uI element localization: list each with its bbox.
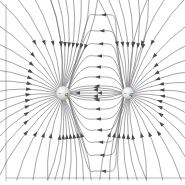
arrow-head-icon xyxy=(84,44,88,50)
arrow-head-icon xyxy=(142,44,146,50)
arrow-head-icon xyxy=(96,65,101,69)
field-line-spoke xyxy=(33,0,61,87)
arrow-head-icon xyxy=(25,93,30,97)
arrow-head-icon xyxy=(75,91,80,95)
arrow-head-icon xyxy=(121,42,125,47)
field-line-spoke xyxy=(65,100,91,181)
arrow-head-icon xyxy=(107,132,110,138)
field-line-spoke xyxy=(62,100,67,180)
arrow-head-icon xyxy=(93,86,98,89)
arrow-head-icon xyxy=(42,40,46,46)
arrow-head-icon xyxy=(158,113,163,118)
arrow-head-icon xyxy=(33,131,37,136)
arrow-head-icon xyxy=(23,130,28,135)
arrow-head-icon xyxy=(26,81,32,85)
arrow-head-icon xyxy=(122,133,126,138)
field-line-spoke xyxy=(33,100,61,181)
arrow-head-icon xyxy=(51,41,55,47)
arrow-head-icon xyxy=(95,75,100,79)
arrow-head-icon xyxy=(98,140,103,144)
arrow-head-icon xyxy=(25,99,31,103)
arrow-head-icon xyxy=(76,43,80,49)
arrow-head-icon xyxy=(26,87,31,91)
field-line-spoke xyxy=(134,72,185,91)
page-frame xyxy=(6,4,185,181)
charge-quantity-label: q xyxy=(65,90,69,98)
arrow-head-icon xyxy=(101,170,106,174)
arrow-head-icon xyxy=(112,132,116,138)
arrow-head-icon xyxy=(95,107,100,111)
arrow-head-icon xyxy=(160,94,165,98)
charge-right: −q xyxy=(122,87,134,99)
field-line-spoke xyxy=(47,100,61,180)
arrow-head-icon xyxy=(49,133,53,139)
field-line-spoke xyxy=(134,90,185,93)
arrow-head-icon xyxy=(65,134,69,139)
arrow-head-icon xyxy=(41,132,45,138)
arrow-head-icon xyxy=(27,75,33,79)
arrow-head-icon xyxy=(28,69,33,73)
arrow-head-icon xyxy=(69,134,73,139)
arrow-head-icon xyxy=(159,88,164,92)
arrow-head-icon xyxy=(157,100,163,104)
arrow-head-icon xyxy=(148,132,152,138)
arrow-head-icon xyxy=(67,42,71,47)
arrow-head-icon xyxy=(24,105,30,109)
electric-field-diagram: −q−q xyxy=(0,0,185,185)
arrow-head-icon xyxy=(71,43,75,48)
arrow-head-icon xyxy=(131,134,135,139)
arrow-head-icon xyxy=(59,41,63,46)
arrow-head-icon xyxy=(131,43,135,48)
arrow-head-icon xyxy=(73,133,77,138)
arrow-head-icon xyxy=(158,106,164,110)
arrow-head-icon xyxy=(126,42,130,47)
arrow-head-icon xyxy=(99,153,104,157)
figure-container: −q−q xyxy=(0,0,185,185)
arrow-head-icon xyxy=(136,43,140,48)
arrow-head-icon xyxy=(157,131,161,136)
arrow-head-icon xyxy=(151,40,155,45)
arrow-head-icon xyxy=(98,42,103,46)
arrow-head-icon xyxy=(140,132,144,138)
arrow-head-icon xyxy=(32,40,36,45)
arrow-head-icon xyxy=(80,43,84,49)
charge-left: −q xyxy=(56,86,70,100)
field-line-spoke xyxy=(17,99,60,180)
arrow-head-icon xyxy=(97,128,102,132)
arrow-head-icon xyxy=(97,91,102,95)
arrow-head-icon xyxy=(99,29,104,33)
arrow-head-icon xyxy=(29,61,34,66)
arrow-head-icon xyxy=(159,82,164,86)
arrow-head-icon xyxy=(96,117,101,121)
arrow-head-icon xyxy=(93,97,98,100)
arrow-head-icon xyxy=(24,112,29,116)
arrow-head-icon xyxy=(127,134,131,139)
charge-quantity-label: q xyxy=(129,90,133,98)
arrow-head-icon xyxy=(63,42,67,47)
field-line-spoke xyxy=(0,0,59,87)
arrow-head-icon xyxy=(57,135,61,140)
field-line-spoke xyxy=(65,100,84,180)
field-line-spoke xyxy=(0,97,57,140)
arrow-head-icon xyxy=(97,54,102,58)
arrow-head-icon xyxy=(101,13,106,17)
arrow-head-icon xyxy=(154,70,159,74)
field-line-spoke xyxy=(134,82,185,92)
arrow-head-icon xyxy=(155,77,161,81)
